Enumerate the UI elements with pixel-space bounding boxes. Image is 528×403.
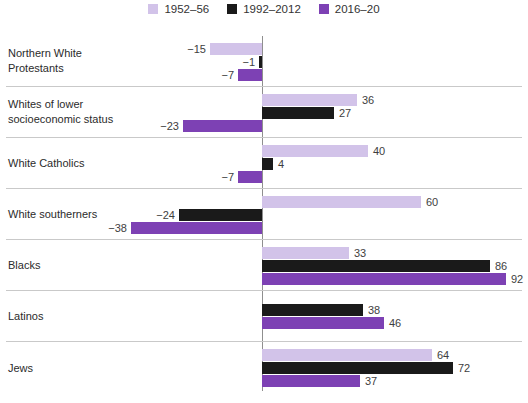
bar-1992-2012-white-catholics (262, 158, 273, 170)
category-label: White southerners (8, 207, 97, 222)
bar-1992-2012-jews (262, 362, 453, 374)
bar-1992-2012-blacks (262, 260, 490, 272)
bar-value-label: −7 (221, 69, 234, 81)
bar-value-label: 33 (354, 247, 366, 259)
group-row-white-catholics: White Catholics404−7 (6, 138, 522, 189)
bar-chart: Northern WhiteProtestants−15−1−7Whites o… (6, 36, 522, 393)
bar-value-label: −38 (108, 222, 127, 234)
bar-1992-2012-northern-white-protestants (259, 56, 262, 68)
legend-swatch-icon (148, 4, 158, 14)
bar-value-label: 86 (495, 260, 507, 272)
legend-label: 1992–2012 (243, 3, 301, 15)
group-row-northern-white-protestants: Northern WhiteProtestants−15−1−7 (6, 36, 522, 87)
legend-label: 2016–20 (335, 3, 380, 15)
bar-2016-20-whites-of-lower-socioeconomic-status (183, 120, 262, 132)
bar-value-label: 60 (426, 196, 438, 208)
bar-value-label: −15 (187, 43, 206, 55)
bar-value-label: −7 (221, 171, 234, 183)
bar-value-label: 92 (511, 273, 523, 285)
bar-value-label: 64 (437, 349, 449, 361)
legend: 1952–561992–20122016–20 (0, 3, 528, 15)
bar-value-label: −23 (160, 120, 179, 132)
legend-swatch-icon (319, 4, 329, 14)
bar-2016-20-latinos (262, 317, 384, 329)
legend-item-1952-56: 1952–56 (148, 3, 209, 15)
bar-2016-20-jews (262, 375, 360, 387)
category-label: Blacks (8, 258, 40, 273)
legend-label: 1952–56 (164, 3, 209, 15)
group-row-jews: Jews647237 (6, 342, 522, 393)
bar-value-label: 46 (389, 317, 401, 329)
category-label: Latinos (8, 309, 43, 324)
bar-value-label: 72 (458, 362, 470, 374)
bar-value-label: 36 (362, 94, 374, 106)
bar-1952-56-blacks (262, 247, 349, 259)
bar-value-label: 40 (373, 145, 385, 157)
legend-item-2016-20: 2016–20 (319, 3, 380, 15)
bar-1992-2012-white-southerners (179, 209, 262, 221)
group-row-latinos: Latinos3846 (6, 291, 522, 342)
bar-2016-20-blacks (262, 273, 506, 285)
bar-value-label: 4 (278, 158, 284, 170)
category-label: Northern WhiteProtestants (8, 46, 82, 76)
figure: 1952–561992–20122016–20 Northern WhitePr… (0, 0, 528, 403)
category-label: White Catholics (8, 156, 84, 171)
bar-1952-56-northern-white-protestants (210, 43, 262, 55)
bar-value-label: −24 (156, 209, 175, 221)
bar-1952-56-white-catholics (262, 145, 368, 157)
bar-1992-2012-latinos (262, 304, 363, 316)
bar-1952-56-jews (262, 349, 432, 361)
bar-2016-20-northern-white-protestants (238, 69, 262, 81)
bar-1952-56-whites-of-lower-socioeconomic-status (262, 94, 357, 106)
bar-value-label: 38 (368, 304, 380, 316)
bar-1992-2012-whites-of-lower-socioeconomic-status (262, 107, 334, 119)
category-label: Whites of lowersocioeconomic status (8, 97, 113, 127)
group-row-whites-of-lower-socioeconomic-status: Whites of lowersocioeconomic status3627−… (6, 87, 522, 138)
bar-value-label: 27 (339, 107, 351, 119)
group-row-white-southerners: White southerners60−24−38 (6, 189, 522, 240)
bar-value-label: −1 (242, 56, 255, 68)
bar-value-label: 37 (365, 375, 377, 387)
bar-1952-56-white-southerners (262, 196, 421, 208)
legend-item-1992-2012: 1992–2012 (227, 3, 301, 15)
bar-2016-20-white-catholics (238, 171, 262, 183)
group-row-blacks: Blacks338692 (6, 240, 522, 291)
legend-swatch-icon (227, 4, 237, 14)
category-label: Jews (8, 360, 33, 375)
bar-2016-20-white-southerners (131, 222, 262, 234)
